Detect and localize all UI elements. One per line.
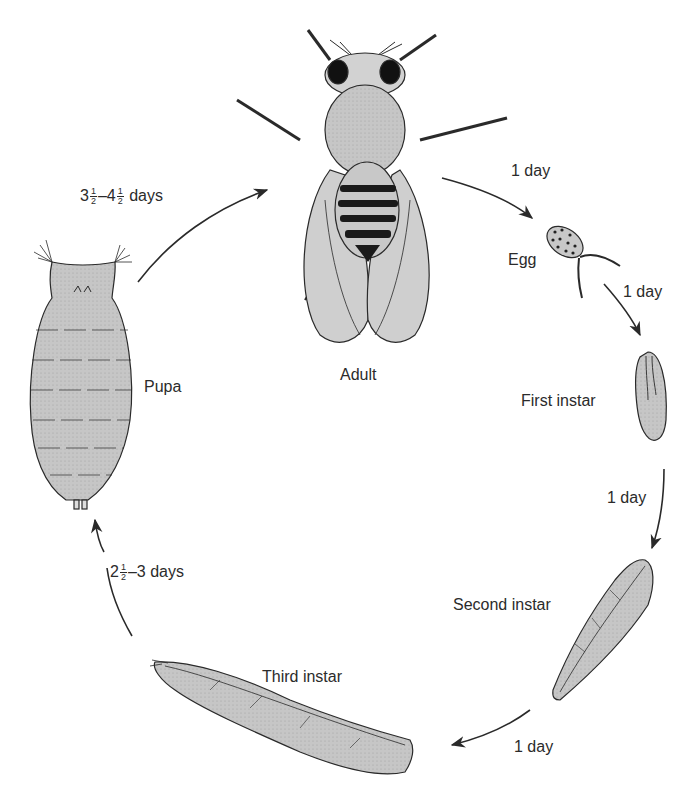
stage-label-third-instar: Third instar bbox=[262, 668, 342, 686]
duration-egg-to-first-instar: 1 day bbox=[623, 283, 662, 301]
arrow-adult-to-egg bbox=[442, 178, 532, 218]
stage-label-second-instar: Second instar bbox=[453, 596, 551, 614]
stage-label-egg: Egg bbox=[508, 251, 536, 269]
duration-third-instar-to-pupa: 212–3 days bbox=[110, 563, 184, 582]
stage-label-first-instar: First instar bbox=[521, 392, 596, 410]
duration-pupa-to-adult: 312–412 days bbox=[80, 187, 163, 206]
first-instar-illustration bbox=[636, 352, 667, 440]
stage-label-pupa: Pupa bbox=[144, 378, 181, 396]
duration-adult-to-egg: 1 day bbox=[511, 162, 550, 180]
egg-illustration bbox=[541, 220, 620, 298]
duration-whole: 2 bbox=[110, 563, 119, 580]
fraction-half: 12 bbox=[120, 563, 127, 582]
second-instar-illustration bbox=[553, 560, 653, 700]
duration-first-to-second-instar: 1 day bbox=[607, 489, 646, 507]
duration-second-to-third-instar: 1 day bbox=[514, 738, 553, 756]
adult-fly-illustration bbox=[237, 30, 507, 342]
fraction-half: 12 bbox=[90, 187, 97, 206]
pupa-illustration bbox=[30, 240, 132, 509]
arrow-first-to-second-instar bbox=[652, 469, 664, 548]
stage-label-adult: Adult bbox=[340, 366, 376, 384]
fraction-half: 12 bbox=[117, 187, 124, 206]
duration-rest: –3 days bbox=[128, 563, 184, 580]
